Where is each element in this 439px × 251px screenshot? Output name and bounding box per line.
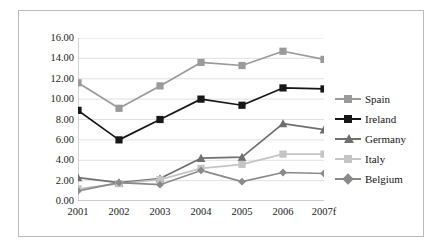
y-axis-tick-labels: 0.002.004.006.008.0010.0012.0014.0016.00 [34, 38, 74, 201]
legend-marker-square-icon [344, 95, 352, 103]
data-point-ireland [279, 84, 286, 91]
chart-legend: SpainIrelandGermanyItalyBelgium [335, 89, 433, 189]
y-tick-label: 8.00 [36, 114, 74, 125]
legend-item-italy[interactable]: Italy [335, 149, 433, 169]
data-point-spain [197, 59, 204, 66]
x-tick-label: 2006 [260, 205, 306, 218]
legend-item-ireland[interactable]: Ireland [335, 109, 433, 129]
legend-marker-square-icon [344, 155, 352, 163]
legend-label: Spain [365, 93, 390, 106]
data-point-spain [320, 56, 324, 63]
x-axis-tick-labels: 2001200220032004200520062007f [78, 205, 324, 221]
legend-swatch-italy-icon [335, 152, 361, 166]
data-point-belgium [279, 169, 287, 177]
legend-label: Belgium [365, 173, 403, 186]
y-tick-label: 4.00 [36, 154, 74, 165]
data-point-spain [279, 48, 286, 55]
legend-marker-square-icon [344, 115, 352, 123]
legend-swatch-belgium-icon [335, 172, 361, 186]
y-tick-label: 16.00 [36, 32, 74, 43]
legend-label: Italy [365, 153, 385, 166]
y-tick-label: 14.00 [36, 52, 74, 63]
data-point-ireland [156, 116, 163, 123]
legend-item-germany[interactable]: Germany [335, 129, 433, 149]
data-point-ireland [78, 107, 82, 114]
data-point-ireland [197, 96, 204, 103]
data-point-italy [279, 151, 286, 158]
data-point-belgium [320, 170, 324, 178]
chart-frame: 0.002.004.006.008.0010.0012.0014.0016.00… [18, 10, 424, 237]
legend-swatch-spain-icon [335, 92, 361, 106]
data-point-italy [238, 161, 245, 168]
legend-label: Germany [365, 133, 406, 146]
data-point-ireland [320, 85, 324, 92]
data-point-spain [78, 79, 82, 86]
x-tick-label: 2004 [178, 205, 224, 218]
plot-svg [78, 38, 324, 201]
x-tick-label: 2003 [137, 205, 183, 218]
data-point-spain [115, 105, 122, 112]
chart-figure: 0.002.004.006.008.0010.0012.0014.0016.00… [0, 0, 439, 251]
legend-marker-diamond-icon [342, 173, 353, 184]
plot-area [78, 38, 324, 201]
x-tick-label: 2005 [219, 205, 265, 218]
y-tick-label: 6.00 [36, 134, 74, 145]
data-point-ireland [238, 102, 245, 109]
y-tick-label: 10.00 [36, 93, 74, 104]
legend-marker-triangle-icon [344, 134, 354, 143]
x-tick-label: 2007f [301, 205, 347, 218]
legend-item-spain[interactable]: Spain [335, 89, 433, 109]
x-tick-label: 2001 [55, 205, 101, 218]
legend-swatch-germany-icon [335, 132, 361, 146]
data-point-spain [156, 82, 163, 89]
y-tick-label: 12.00 [36, 73, 74, 84]
x-tick-label: 2002 [96, 205, 142, 218]
data-point-ireland [115, 136, 122, 143]
data-point-belgium [238, 178, 246, 186]
data-point-spain [238, 62, 245, 69]
legend-item-belgium[interactable]: Belgium [335, 169, 433, 189]
legend-swatch-ireland-icon [335, 112, 361, 126]
legend-label: Ireland [365, 113, 396, 126]
y-tick-label: 2.00 [36, 175, 74, 186]
data-point-italy [320, 151, 324, 158]
